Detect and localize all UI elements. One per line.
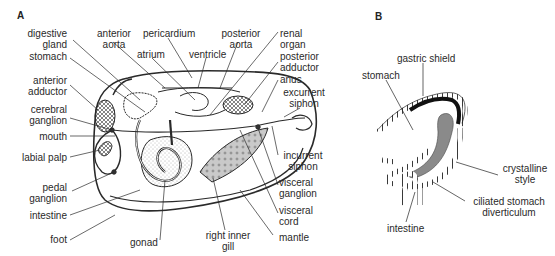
label-b-intestine: intestine (387, 223, 424, 234)
label-anterior-aorta: anterior aorta (90, 28, 138, 50)
label-anterior-adductor: anterior adductor (20, 75, 67, 97)
label-visceral-cord: visceral cord (279, 205, 313, 227)
label-atrium: atrium (137, 49, 165, 60)
label-labial-palp: labial palp (10, 152, 67, 163)
label-gastric-shield: gastric shield (397, 53, 455, 64)
label-visceral-ganglion: visceral ganglion (279, 177, 317, 199)
label-incurrent-siphon: incurrent siphon (278, 150, 328, 172)
gill-shape (200, 128, 268, 182)
label-cerebral-ganglion: cerebral ganglion (20, 104, 67, 126)
label-renal-organ: renal organ (280, 28, 306, 50)
label-stomach: stomach (20, 51, 67, 62)
panel-label-b: B (375, 11, 382, 22)
label-foot: foot (20, 234, 67, 245)
label-right-inner-gill: right inner gill (200, 230, 256, 252)
panel-label-a: A (17, 10, 24, 21)
label-mantle: mantle (279, 232, 309, 243)
gonad-shape (141, 137, 192, 187)
label-posterior-adductor: posterior adductor (280, 51, 319, 73)
label-mouth: mouth (20, 131, 67, 142)
label-pedal-ganglion: pedal ganglion (20, 182, 67, 204)
label-intestine: intestine (15, 210, 67, 221)
label-pericardium: pericardium (143, 28, 195, 39)
anterior-adductor-shape (95, 100, 115, 132)
label-digestive-gland: digestive gland (20, 28, 67, 50)
label-posterior-aorta: posterior aorta (218, 28, 264, 50)
label-gonad: gonad (130, 237, 158, 248)
label-ventricle: ventricle (189, 49, 226, 60)
digestive-gland-shape (124, 93, 157, 119)
label-anus: anus (280, 74, 302, 85)
label-b-stomach: stomach (362, 70, 400, 81)
label-crystalline-style: crystalline style (496, 163, 554, 185)
crystalline-style-shape (409, 114, 454, 178)
label-ciliated-stomach-diverticulum: ciliated stomach diverticulum (464, 196, 554, 218)
posterior-adductor-shape (223, 96, 253, 114)
label-excurrent-siphon: excurrent siphon (280, 87, 328, 109)
